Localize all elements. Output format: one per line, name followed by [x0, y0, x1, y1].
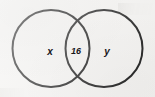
right-region-label: y: [101, 47, 113, 57]
intersection-region-label: 16: [69, 47, 83, 56]
left-region-label: x: [44, 47, 56, 57]
venn-diagram-canvas: x 16 y: [0, 0, 155, 97]
